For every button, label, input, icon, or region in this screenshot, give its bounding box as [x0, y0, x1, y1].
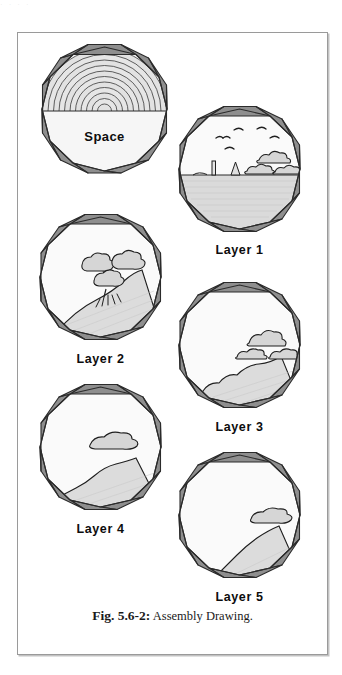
- figure-stage: Space: [18, 33, 327, 654]
- layer-3-diagram: [173, 281, 306, 417]
- page-bleed-artifact: · · · ·: [0, 0, 342, 14]
- space-diagram: Space: [36, 43, 173, 183]
- layer-5-label: Layer 5: [173, 590, 306, 604]
- module-layer-1: Layer 1: [173, 105, 306, 260]
- figure-caption-number: Fig. 5.6-2:: [92, 608, 150, 623]
- layer-4-label: Layer 4: [34, 522, 167, 536]
- module-space: Space: [36, 43, 173, 183]
- layer-2-diagram: [34, 213, 167, 349]
- layer-3-label: Layer 3: [173, 420, 306, 434]
- module-layer-2: Layer 2: [34, 213, 167, 371]
- layer-5-diagram: [173, 451, 306, 587]
- layer-4-diagram: [34, 383, 167, 519]
- figure-frame: Space: [17, 32, 328, 655]
- space-label: Space: [84, 129, 124, 144]
- layer-2-label: Layer 2: [34, 352, 167, 366]
- module-layer-5: Layer 5: [173, 451, 306, 609]
- module-layer-4: Layer 4: [34, 383, 167, 541]
- figure-caption-text: Assembly Drawing.: [150, 609, 252, 623]
- figure-caption: Fig. 5.6-2: Assembly Drawing.: [18, 608, 327, 624]
- layer-1-diagram: [173, 105, 306, 241]
- layer-1-label: Layer 1: [173, 243, 306, 257]
- module-layer-3: Layer 3: [173, 281, 306, 439]
